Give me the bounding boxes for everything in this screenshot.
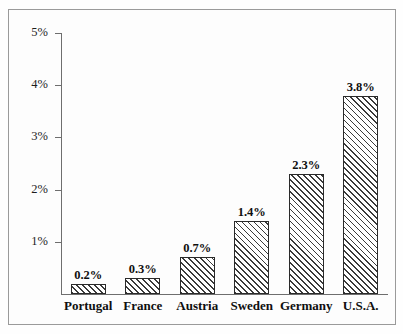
bar [180,257,215,294]
y-axis-tick-mark [55,33,61,34]
bar-value-label: 0.2% [60,269,116,282]
bar [343,96,378,294]
y-axis-tick-label: 1% [31,235,48,248]
x-axis-category-label: U.S.A. [328,299,394,312]
x-axis-baseline [61,294,388,295]
bar-chart-figure: 1%2%3%4%5% 0.2%0.3%0.7%1.4%2.3%3.8% Port… [0,0,403,334]
y-axis-tick-label: 5% [31,26,48,39]
y-axis-tick-label: 2% [31,183,48,196]
bar [125,278,160,294]
y-axis-tick-mark [55,85,61,86]
bar-value-label: 3.8% [333,81,389,94]
y-axis-tick-label: 3% [31,130,48,143]
bar [289,174,324,294]
y-axis-tick-label: 4% [31,78,48,91]
bar-value-label: 0.3% [115,263,171,276]
y-axis-line [61,33,62,295]
y-axis-tick-mark [55,190,61,191]
bar [234,221,269,294]
y-axis-tick-mark [55,242,61,243]
bar-value-label: 1.4% [224,206,280,219]
bar-value-label: 2.3% [278,159,334,172]
y-axis-tick-mark [55,137,61,138]
bar [71,284,106,294]
bar-value-label: 0.7% [169,242,225,255]
